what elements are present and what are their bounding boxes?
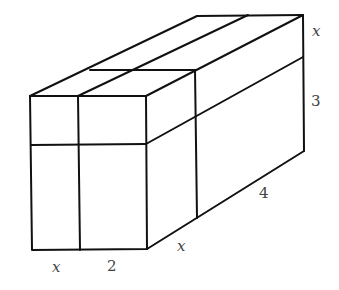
front-face (30, 96, 147, 250)
label-front-2: 2 (107, 257, 117, 275)
front-horizontal-divider (31, 144, 146, 145)
side-vertical-divider (195, 70, 197, 218)
label-depth-x: x (177, 237, 186, 255)
label-height-x: x (312, 22, 321, 40)
label-front-x: x (52, 258, 61, 276)
top-face (30, 15, 303, 96)
label-depth-4: 4 (259, 184, 269, 202)
box-diagram: x 2 x 4 x 3 (0, 0, 339, 290)
label-height-3: 3 (311, 92, 321, 110)
side-face (146, 15, 304, 249)
front-vertical-divider (78, 96, 80, 250)
